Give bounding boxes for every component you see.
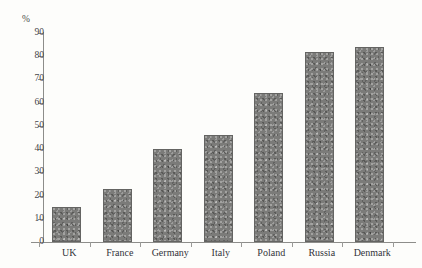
y-axis-tick-label: 30: [14, 166, 44, 176]
y-axis-tick-label: 50: [14, 120, 44, 130]
y-axis-tick-label: 60: [14, 97, 44, 107]
y-axis-tick-label: 90: [14, 27, 44, 37]
x-axis-category-label: Denmark: [343, 247, 402, 258]
y-axis-tick-label: 70: [14, 73, 44, 83]
y-axis-tick-label: 10: [14, 213, 44, 223]
bar: [52, 207, 81, 242]
bar: [355, 47, 384, 242]
y-axis-tick-label: 40: [14, 143, 44, 153]
y-axis-tick-label: 80: [14, 50, 44, 60]
y-axis-unit-label: %: [22, 14, 30, 24]
bar: [153, 149, 182, 242]
bar: [103, 189, 132, 242]
plot-area: [44, 33, 416, 242]
bar: [305, 52, 334, 242]
bar-chart-figure: % 0102030405060708090 UKFranceGermanyIta…: [0, 0, 422, 268]
bar: [254, 93, 283, 242]
bar: [204, 135, 233, 242]
y-axis-tick-label: 20: [14, 190, 44, 200]
